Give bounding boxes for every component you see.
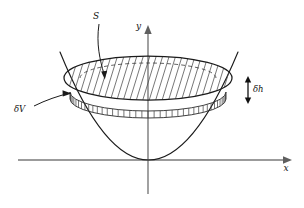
- surface-leader-line: [98, 24, 104, 74]
- hatch-line: [226, 52, 242, 104]
- hatch-line: [70, 52, 86, 104]
- hatch-group: [64, 52, 248, 104]
- hatch-line: [219, 52, 235, 104]
- axes-group: x y: [18, 21, 292, 194]
- y-axis-label: y: [135, 21, 142, 31]
- top-disc-group: [64, 52, 248, 104]
- hatch-line: [154, 52, 170, 104]
- hatch-line: [83, 52, 99, 104]
- hatch-line: [109, 52, 125, 104]
- hatch-line: [148, 52, 164, 104]
- height-label: δh: [253, 84, 264, 94]
- volume-annotation: δV: [14, 90, 72, 114]
- paraboloid-diagram: x y S: [0, 0, 304, 208]
- hatch-line: [167, 52, 183, 104]
- hatch-line: [129, 52, 145, 104]
- y-axis-arrowhead: [144, 25, 151, 34]
- hatch-line: [174, 52, 190, 104]
- hatch-line: [200, 52, 216, 104]
- hatch-line: [142, 52, 158, 104]
- height-arrowhead-down: [245, 98, 251, 105]
- figure-container: x y S: [0, 0, 304, 208]
- hatch-line: [161, 52, 177, 104]
- x-axis-label: x: [283, 163, 288, 173]
- height-annotation: δh: [245, 76, 264, 104]
- volume-label: δV: [14, 104, 26, 114]
- height-arrowhead-up: [245, 76, 251, 83]
- surface-label: S: [93, 11, 99, 21]
- hatch-line: [77, 52, 93, 104]
- hatch-line: [116, 52, 132, 104]
- surface-annotation: S: [93, 11, 107, 80]
- hatch-line: [206, 52, 222, 104]
- hatch-line: [122, 52, 138, 104]
